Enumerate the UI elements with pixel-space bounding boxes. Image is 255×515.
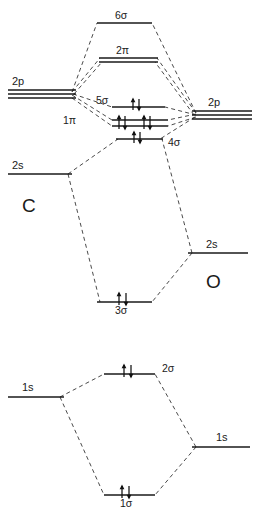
corr-o2p-to-2pi-a xyxy=(157,58,196,113)
mo-label-1sigma: 1σ xyxy=(120,497,133,509)
mo-label-4sigma: 4σ xyxy=(168,136,181,148)
ao-level-right-2p xyxy=(192,111,252,119)
corr-o2s-to-3sigma xyxy=(152,253,192,302)
corr-o2s-to-4sigma xyxy=(162,139,192,253)
ao-label-right-1s: 1s xyxy=(216,431,228,443)
atom-label-left: C xyxy=(22,195,36,216)
ao-level-left-2p xyxy=(8,90,76,98)
atom-label-right: O xyxy=(206,271,221,292)
electron-pair-2sigma xyxy=(122,364,134,379)
corr-c2p-to-2pi-a xyxy=(72,58,100,92)
corr-c2s-to-4sigma xyxy=(68,139,118,174)
correlation-lines-core xyxy=(60,374,196,495)
corr-o2p-to-6sigma xyxy=(152,23,196,113)
mo-label-6sigma: 6σ xyxy=(115,9,128,21)
electron-pair-5sigma xyxy=(131,98,142,112)
corr-c2p-to-2pi-b xyxy=(74,62,102,94)
corr-o1s-to-1sigma xyxy=(155,447,196,495)
mo-label-1pi: 1π xyxy=(63,114,76,126)
corr-c1s-to-2sigma xyxy=(60,374,104,397)
mo-label-2sigma: 2σ xyxy=(162,362,175,374)
electron-pair-1pi-a xyxy=(117,115,128,131)
corr-c1s-to-1sigma xyxy=(60,397,104,495)
electron-pair-4sigma xyxy=(132,131,143,145)
mo-label-2pi: 2π xyxy=(116,44,129,56)
corr-o2p-to-5sigma xyxy=(165,107,196,115)
mo-level-2pi xyxy=(99,58,158,62)
ao-label-right-2s: 2s xyxy=(206,238,218,250)
ao-label-right-2p: 2p xyxy=(208,96,220,108)
mo-label-5sigma: 5σ xyxy=(96,94,109,106)
corr-c2s-to-3sigma xyxy=(68,174,100,302)
mo-diagram-canvas: 2p 2p 2s 2s C O 6σ 2π 5σ xyxy=(0,0,255,515)
ao-label-left-2s: 2s xyxy=(12,159,24,171)
mo-diagram-svg: 2p 2p 2s 2s C O 6σ 2π 5σ xyxy=(0,0,255,515)
ao-label-left-1s: 1s xyxy=(22,381,34,393)
electron-pair-1pi-b xyxy=(142,115,153,131)
corr-o1s-to-2sigma xyxy=(155,374,196,447)
correlation-lines-valence xyxy=(68,23,196,302)
mo-level-1pi xyxy=(112,120,168,126)
ao-label-left-2p: 2p xyxy=(12,75,24,87)
